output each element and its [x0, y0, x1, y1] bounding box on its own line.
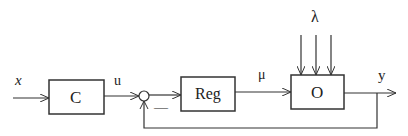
block-c-label: C [70, 89, 81, 106]
signal-x-label: x [15, 73, 22, 88]
feedback-line [144, 93, 377, 128]
control-block-diagram: x C u — Reg μ O λ y [0, 0, 408, 136]
block-o-label: O [311, 84, 323, 101]
signal-u-label: u [114, 74, 121, 88]
signal-y-label: y [378, 68, 386, 83]
diagram-lines [0, 0, 408, 136]
signal-lambda-label: λ [311, 9, 319, 25]
summing-junction [139, 91, 149, 101]
block-reg-label: Reg [195, 86, 221, 102]
feedback-minus-sign: — [154, 101, 168, 115]
signal-mu-label: μ [258, 68, 266, 82]
